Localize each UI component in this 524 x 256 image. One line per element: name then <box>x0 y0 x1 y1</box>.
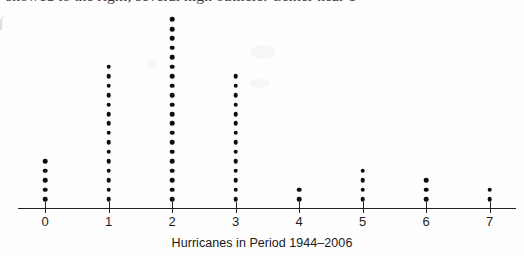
x-axis-tick-6 <box>426 202 427 213</box>
plot-dot <box>106 149 111 154</box>
plot-dot <box>43 178 48 183</box>
x-axis-tick-label-7: 7 <box>486 215 493 228</box>
x-axis-tick-label-5: 5 <box>359 215 366 228</box>
plot-dot <box>106 74 111 79</box>
plot-dot <box>106 168 111 173</box>
plot-dot <box>233 197 238 202</box>
plot-area: 01234567 <box>0 0 524 256</box>
plot-dot <box>106 93 111 98</box>
plot-dot <box>170 197 175 202</box>
plot-dot <box>170 149 175 154</box>
plot-dot <box>170 178 175 183</box>
plot-dot <box>170 168 175 173</box>
plot-dot <box>233 140 238 145</box>
plot-dot <box>424 178 429 183</box>
x-axis-tick-0 <box>45 202 46 213</box>
scan-smudge <box>250 78 270 88</box>
plot-dot <box>233 102 238 107</box>
plot-dot <box>170 140 175 145</box>
plot-dot <box>233 121 238 126</box>
plot-dot <box>170 159 175 164</box>
plot-dot <box>424 187 429 192</box>
plot-dot <box>106 159 111 164</box>
x-axis-title: Hurricanes in Period 1944–2006 <box>0 236 524 250</box>
x-axis-line <box>18 208 516 209</box>
plot-dot <box>360 187 365 192</box>
x-axis-tick-label-6: 6 <box>422 215 429 228</box>
plot-dot <box>106 83 111 88</box>
plot-dot <box>170 46 175 51</box>
x-axis-tick-2 <box>172 202 173 213</box>
plot-dot <box>487 187 492 192</box>
plot-dot <box>170 55 175 60</box>
plot-dot <box>43 197 48 202</box>
plot-dot <box>106 112 111 117</box>
x-axis-tick-label-4: 4 <box>295 215 302 228</box>
plot-dot <box>424 197 429 202</box>
scan-smudge <box>145 60 159 68</box>
plot-dot <box>106 131 111 136</box>
plot-dot <box>487 197 492 202</box>
plot-dot <box>170 36 175 41</box>
x-axis-tick-label-1: 1 <box>105 215 112 228</box>
plot-dot <box>233 149 238 154</box>
x-axis-tick-label-3: 3 <box>232 215 239 228</box>
plot-dot <box>233 131 238 136</box>
plot-dot <box>106 178 111 183</box>
plot-dot <box>170 93 175 98</box>
plot-dot <box>170 112 175 117</box>
plot-dot <box>233 178 238 183</box>
plot-dot <box>170 17 175 22</box>
plot-dot <box>170 74 175 79</box>
plot-dot <box>170 83 175 88</box>
plot-dot <box>233 112 238 117</box>
plot-dot <box>106 140 111 145</box>
plot-dot <box>170 121 175 126</box>
x-axis-tick-4 <box>299 202 300 213</box>
plot-dot <box>106 187 111 192</box>
plot-dot <box>106 121 111 126</box>
plot-dot <box>170 64 175 69</box>
plot-dot <box>106 197 111 202</box>
plot-dot <box>106 102 111 107</box>
plot-dot <box>233 83 238 88</box>
dot-plot-figure: showed to the right; several high outlie… <box>0 0 524 256</box>
x-axis-tick-3 <box>236 202 237 213</box>
plot-dot <box>43 159 48 164</box>
plot-dot <box>233 159 238 164</box>
x-axis-tick-7 <box>490 202 491 213</box>
x-axis-tick-1 <box>109 202 110 213</box>
x-axis-tick-label-0: 0 <box>41 215 48 228</box>
plot-dot <box>106 64 111 69</box>
plot-dot <box>170 131 175 136</box>
plot-dot <box>360 197 365 202</box>
plot-dot <box>170 27 175 32</box>
x-axis-tick-label-2: 2 <box>168 215 175 228</box>
plot-dot <box>297 187 302 192</box>
plot-dot <box>360 168 365 173</box>
plot-dot <box>43 187 48 192</box>
plot-dot <box>233 74 238 79</box>
plot-dot <box>233 93 238 98</box>
plot-dot <box>43 168 48 173</box>
plot-dot <box>170 102 175 107</box>
plot-dot <box>170 187 175 192</box>
plot-dot <box>233 187 238 192</box>
plot-dot <box>360 178 365 183</box>
plot-dot <box>233 168 238 173</box>
scan-smudge <box>250 45 276 59</box>
plot-dot <box>297 197 302 202</box>
x-axis-tick-5 <box>363 202 364 213</box>
